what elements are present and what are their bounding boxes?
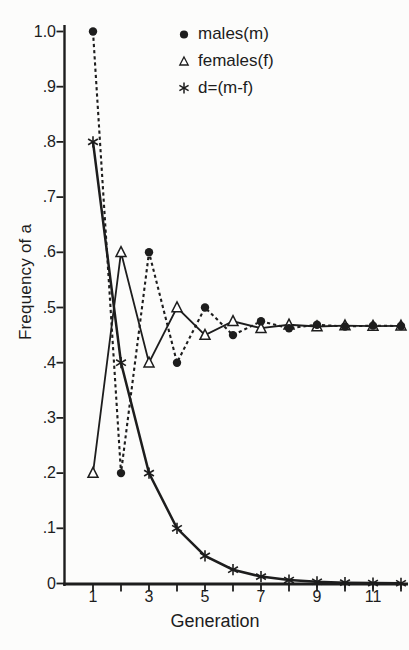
marker-open-triangle (144, 357, 154, 367)
marker-asterisk (116, 357, 126, 368)
open-triangle-icon (176, 52, 194, 70)
y-tick-label: 0 (20, 575, 56, 593)
series-line-asterisk (93, 142, 401, 583)
marker-filled-circle (369, 321, 377, 329)
x-tick-label: 3 (134, 588, 164, 606)
marker-filled-circle (145, 248, 153, 256)
marker-filled-circle (257, 317, 265, 325)
x-tick-label: 9 (302, 588, 332, 606)
y-tick-label: .2 (20, 464, 56, 482)
marker-filled-circle (117, 469, 125, 477)
filled-circle-icon (176, 25, 194, 43)
marker-filled-circle (229, 331, 237, 339)
marker-asterisk (88, 136, 98, 147)
marker-filled-circle (313, 321, 321, 329)
x-tick-label: 7 (246, 588, 276, 606)
x-tick-label: 5 (190, 588, 220, 606)
x-axis-title: Generation (155, 611, 275, 632)
legend-item-females: females(f) (176, 47, 274, 74)
marker-filled-circle (173, 359, 181, 367)
y-axis-title: Frequency of a (16, 202, 36, 362)
marker-open-triangle (172, 302, 182, 312)
y-tick-label: 1.0 (20, 23, 56, 41)
y-tick-label: .6 (20, 243, 56, 261)
y-tick-label: .7 (20, 188, 56, 206)
marker-filled-circle (285, 324, 293, 332)
x-tick-label: 11 (358, 588, 388, 606)
legend: males(m) females(f) d=(m-f) (176, 20, 274, 101)
y-tick-label: .3 (20, 409, 56, 427)
marker-open-triangle (228, 316, 238, 326)
legend-item-d: d=(m-f) (176, 74, 274, 101)
y-tick-label: .4 (20, 354, 56, 372)
figure-allele-frequency-chart: Frequency of a Generation males(m) femal… (0, 0, 409, 650)
series-line-open-triangle (93, 252, 401, 473)
y-tick-label: .1 (20, 519, 56, 537)
y-tick-label: .9 (20, 78, 56, 96)
legend-label-d: d=(m-f) (198, 78, 253, 98)
y-tick-label: .5 (20, 299, 56, 317)
legend-item-males: males(m) (176, 20, 274, 47)
x-tick-label: 1 (78, 588, 108, 606)
marker-filled-circle (89, 27, 97, 35)
marker-filled-circle (201, 303, 209, 311)
marker-asterisk (144, 468, 154, 479)
legend-label-females: females(f) (198, 51, 274, 71)
marker-open-triangle (88, 468, 98, 478)
marker-open-triangle (116, 247, 126, 257)
marker-filled-circle (397, 322, 405, 330)
asterisk-icon (176, 79, 194, 97)
legend-label-males: males(m) (198, 24, 269, 44)
y-tick-label: .8 (20, 133, 56, 151)
marker-filled-circle (341, 322, 349, 330)
